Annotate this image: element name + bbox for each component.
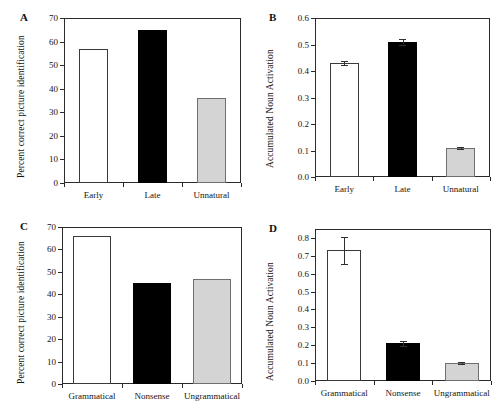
y-tick-label: 30 — [34, 107, 58, 117]
y-tick-mark — [311, 71, 315, 72]
panel-letter-a: A — [20, 11, 28, 23]
y-tick-label: 0.7 — [285, 251, 309, 261]
y-tick-label: 60 — [32, 244, 56, 254]
error-bar-cap — [400, 346, 407, 347]
bar-nonsense — [386, 343, 420, 381]
y-tick-label: 40 — [32, 289, 56, 299]
panel-c: C Percent correct picture identification… — [0, 208, 249, 416]
panel-a: A Percent correct picture identification… — [0, 0, 249, 208]
x-tick-label: Late — [395, 184, 411, 194]
y-tick-mark — [311, 98, 315, 99]
x-tick-label: Ungrammatical — [184, 391, 240, 401]
y-tick-mark — [58, 272, 62, 273]
x-tick-mark — [432, 381, 433, 385]
y-tick-mark — [58, 339, 62, 340]
y-tick-label: 0.8 — [285, 233, 309, 243]
x-tick-label: Early — [334, 184, 354, 194]
error-bar-cap — [341, 65, 348, 66]
bar-unnatural — [197, 98, 227, 183]
y-tick-mark — [60, 18, 64, 19]
panel-d-y-axis-title: Accumulated Noun Activation — [265, 262, 275, 381]
error-bar-cap — [458, 362, 465, 363]
y-tick-label: 0.0 — [285, 376, 309, 386]
y-tick-label: 20 — [32, 334, 56, 344]
x-tick-mark — [182, 183, 183, 187]
y-tick-mark — [58, 227, 62, 228]
y-tick-mark — [60, 136, 64, 137]
bar-nonsense — [133, 283, 170, 384]
error-bar-cap — [400, 341, 407, 342]
x-tick-mark — [64, 183, 65, 187]
y-tick-mark — [60, 159, 64, 160]
y-tick-label: 0.5 — [285, 40, 309, 50]
y-tick-label: 0.4 — [285, 304, 309, 314]
x-tick-mark — [123, 183, 124, 187]
x-tick-mark — [182, 384, 183, 388]
y-tick-label: 0 — [34, 178, 58, 188]
y-tick-label: 0.6 — [285, 269, 309, 279]
y-tick-mark — [60, 89, 64, 90]
error-bar-cap — [457, 149, 464, 150]
y-tick-mark — [60, 42, 64, 43]
panel-letter-b: B — [269, 11, 277, 23]
y-tick-mark — [311, 256, 315, 257]
y-tick-mark — [311, 274, 315, 275]
panel-b-y-axis-title: Accumulated Noun Activation — [265, 49, 275, 168]
x-tick-label: Grammatical — [69, 391, 116, 401]
y-tick-label: 0.4 — [285, 66, 309, 76]
bar-unnatural — [446, 148, 475, 177]
y-tick-label: 0.6 — [285, 13, 309, 23]
bar-ungrammatical — [193, 279, 230, 384]
y-tick-label: 0.3 — [285, 322, 309, 332]
error-bar-cap — [341, 237, 348, 238]
y-tick-label: 50 — [32, 267, 56, 277]
bar-late — [138, 30, 168, 183]
y-tick-mark — [311, 292, 315, 293]
y-tick-label: 0.2 — [285, 340, 309, 350]
x-tick-mark — [315, 381, 316, 385]
y-tick-label: 0.5 — [285, 287, 309, 297]
x-tick-mark — [241, 183, 242, 187]
y-tick-label: 0.1 — [285, 358, 309, 368]
x-tick-label: Unnatural — [194, 190, 230, 200]
x-tick-label: Unnatural — [443, 184, 479, 194]
x-tick-mark — [122, 384, 123, 388]
y-tick-mark — [311, 151, 315, 152]
y-tick-label: 40 — [34, 84, 58, 94]
x-tick-label: Nonsense — [386, 388, 421, 398]
figure-container: A Percent correct picture identification… — [0, 0, 498, 416]
x-tick-mark — [490, 177, 491, 181]
x-tick-mark — [315, 177, 316, 181]
panel-c-y-axis-title: Percent correct picture identification — [16, 241, 26, 384]
panel-a-y-axis-title: Percent correct picture identification — [16, 35, 26, 178]
x-tick-label: Ungrammatical — [434, 388, 490, 398]
panel-letter-d: D — [269, 222, 277, 234]
x-tick-mark — [62, 384, 63, 388]
x-tick-label: Nonsense — [135, 391, 170, 401]
y-tick-label: 10 — [32, 357, 56, 367]
y-tick-label: 30 — [32, 312, 56, 322]
bar-grammatical — [73, 236, 110, 384]
y-tick-mark — [311, 309, 315, 310]
y-tick-mark — [311, 345, 315, 346]
panel-b: B Accumulated Noun Activation 0.00.10.20… — [249, 0, 498, 208]
error-bar-cap — [457, 147, 464, 148]
y-tick-label: 60 — [34, 37, 58, 47]
y-tick-mark — [60, 65, 64, 66]
y-tick-label: 70 — [34, 13, 58, 23]
y-tick-mark — [311, 363, 315, 364]
y-tick-label: 0.3 — [285, 93, 309, 103]
bar-late — [388, 42, 417, 177]
y-tick-label: 10 — [34, 154, 58, 164]
error-bar-cap — [341, 264, 348, 265]
y-tick-mark — [311, 45, 315, 46]
bar-grammatical — [327, 250, 361, 381]
y-tick-mark — [58, 249, 62, 250]
error-bar-cap — [399, 45, 406, 46]
y-tick-mark — [311, 238, 315, 239]
y-tick-label: 50 — [34, 60, 58, 70]
error-bar-grammatical — [344, 237, 345, 264]
y-tick-label: 20 — [34, 131, 58, 141]
x-tick-mark — [373, 177, 374, 181]
x-tick-label: Grammatical — [321, 388, 368, 398]
